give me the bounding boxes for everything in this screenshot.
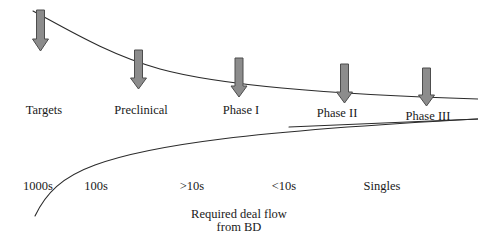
flow-label-gt-10s: >10s [180, 180, 204, 193]
arrow-phase-iii [419, 68, 435, 106]
arrow-phase-ii [337, 64, 353, 103]
arrow-preclinical [131, 50, 147, 89]
flow-label-singles: Singles [364, 180, 401, 193]
pharma-pipeline-funnel-figure: Targets Preclinical Phase I Phase II Pha… [0, 0, 478, 252]
stage-label-phase-i: Phase I [223, 104, 259, 117]
attrition-curve [33, 11, 478, 99]
arrow-phase-i [231, 58, 247, 97]
flow-label-lt-10s: <10s [272, 180, 296, 193]
figure-caption: Required deal flow from BD [191, 208, 287, 234]
stage-label-targets: Targets [26, 104, 62, 117]
caption-line-2: from BD [191, 221, 287, 234]
stage-label-preclinical: Preclinical [114, 104, 167, 117]
arrow-targets [33, 10, 49, 51]
stage-label-phase-iii: Phase III [406, 110, 451, 123]
flow-label-100s: 100s [84, 180, 108, 193]
deal-flow-curve [35, 119, 478, 216]
stage-label-phase-ii: Phase II [317, 107, 358, 120]
flow-label-1000s: 1000s [23, 180, 53, 193]
